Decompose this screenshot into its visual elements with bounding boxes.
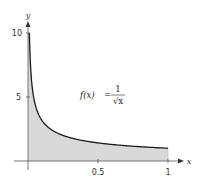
y-tick-label-5: 5 <box>16 93 21 102</box>
shaded-area <box>28 33 168 161</box>
x-axis-label: x <box>187 157 192 166</box>
function-label: f(x) = 1 √x <box>79 84 125 106</box>
function-label-eq: = <box>104 90 111 100</box>
y-tick-label-10: 10 <box>12 29 22 38</box>
y-axis-label: y <box>25 11 31 20</box>
x-tick-label-0.5: 0.5 <box>92 168 105 177</box>
function-label-numerator: 1 <box>115 84 120 94</box>
function-label-denominator: √x <box>113 96 123 106</box>
chart: 0.5 1 5 10 x y f(x) = 1 √x <box>0 0 201 185</box>
function-label-lhs: f(x) <box>79 90 95 100</box>
x-tick-label-1: 1 <box>165 168 170 177</box>
y-axis-arrow-icon <box>26 21 31 27</box>
x-axis-arrow-icon <box>178 159 184 164</box>
